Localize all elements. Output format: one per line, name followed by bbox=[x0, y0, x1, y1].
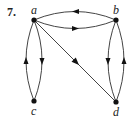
node-b bbox=[113, 17, 118, 22]
node-a bbox=[31, 17, 36, 22]
label-b: b bbox=[113, 3, 119, 17]
arrow-c-a-icon bbox=[24, 57, 29, 64]
problem-number: 7. bbox=[7, 5, 16, 19]
arrow-d-b-icon bbox=[122, 57, 127, 64]
arrow-a-c-icon bbox=[40, 58, 45, 65]
node-c bbox=[31, 98, 36, 103]
node-d bbox=[113, 99, 118, 104]
label-a: a bbox=[31, 3, 37, 17]
label-d: d bbox=[113, 105, 120, 117]
arrow-b-a-icon bbox=[72, 9, 79, 14]
arrow-b-d-icon bbox=[106, 58, 111, 65]
arrow-a-b-icon bbox=[72, 26, 79, 31]
label-c: c bbox=[31, 104, 37, 117]
directed-graph: 7. a b c d bbox=[0, 0, 130, 117]
edge-b-a bbox=[34, 12, 116, 21]
